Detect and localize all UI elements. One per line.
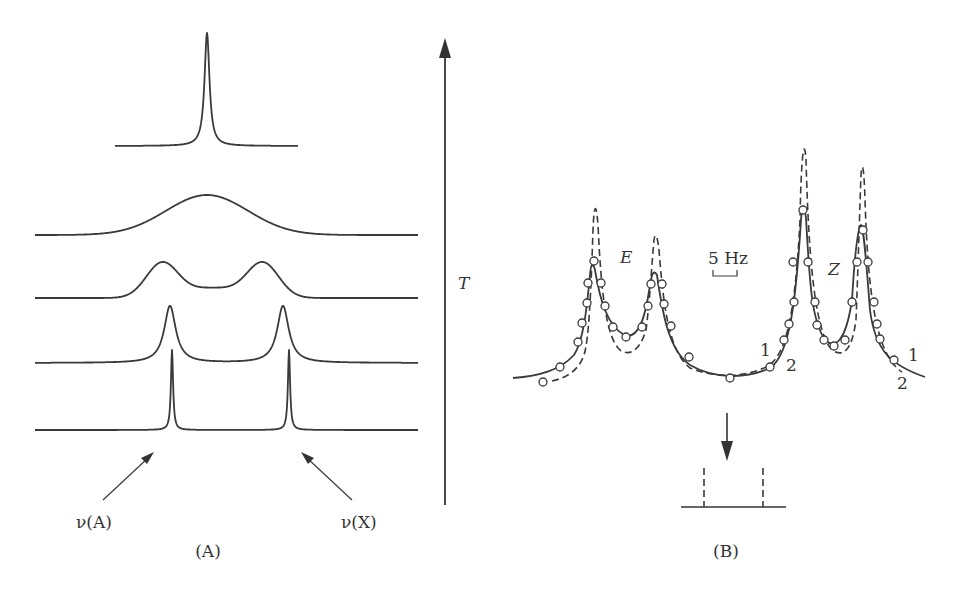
temperature-label: T [458, 273, 471, 293]
curve-label-1-right: 1 [908, 345, 919, 365]
scale-bar-label: 5 Hz [708, 248, 748, 268]
arrow-up-icon [439, 38, 451, 58]
spectrum-trace-broad-coalescence [35, 195, 418, 235]
scale-bar: 5 Hz [708, 248, 748, 276]
panel-b: E Z 5 Hz 1 2 1 2 (B) [513, 149, 925, 561]
panel-a-caption: (A) [195, 541, 221, 561]
nmr-exchange-figure: ν(A) ν(X) (A) T [0, 0, 960, 592]
curve-label-1-left: 1 [760, 340, 771, 360]
arrow-down-icon [721, 413, 733, 461]
spectra-stack [35, 33, 418, 430]
panel-b-caption: (B) [713, 541, 739, 561]
curve-label-2-left: 2 [786, 355, 797, 375]
nu-a-arrow [103, 452, 154, 500]
panel-a: ν(A) ν(X) (A) T [35, 33, 471, 561]
label-e: E [619, 247, 633, 267]
label-z: Z [827, 259, 841, 279]
nu-a-label: ν(A) [76, 512, 112, 532]
stick-spectrum [681, 468, 786, 507]
curve-label-2-right: 2 [897, 373, 908, 393]
nu-x-label: ν(X) [341, 512, 377, 532]
spectrum-trace-exchange-broadened [35, 306, 418, 363]
spectrum-trace-coalesced-sharp [115, 33, 298, 146]
temperature-axis [439, 38, 451, 505]
spectrum-trace-broadened-doublet [35, 262, 418, 298]
nu-x-arrow [301, 452, 352, 500]
